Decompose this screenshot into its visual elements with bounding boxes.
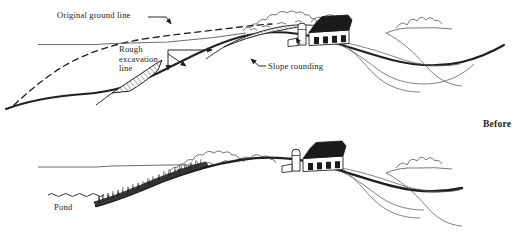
label-rough-excavation-line-1: Rough [119, 44, 143, 54]
label-before: Before [483, 119, 511, 129]
leader-original-ground-line [148, 17, 171, 24]
illustration-root: Original ground line Roughexcavationline… [0, 0, 532, 240]
distant-hill-top [386, 17, 452, 33]
leader-slope-rounding [251, 59, 266, 66]
label-original-ground-line: Original ground line [57, 11, 131, 21]
farm-buildings-bottom [282, 141, 346, 173]
grassed-bank [94, 162, 208, 206]
label-rough-excavation-line: Roughexcavationline [119, 45, 158, 74]
graded-ground-line-top [6, 32, 504, 109]
barn-leanto-bottom [282, 164, 292, 173]
pond-water-line [48, 194, 104, 197]
label-rough-excavation-line-3: line [119, 63, 133, 73]
top-panel [6, 11, 504, 109]
silo-bottom [292, 149, 300, 171]
label-rough-excavation-line-2: excavation [119, 54, 158, 64]
contour-lines-bottom [330, 166, 462, 226]
before-grading-diagram [0, 0, 532, 240]
label-slope-rounding: Slope rounding [268, 62, 323, 72]
excavation-wedge-lower-edge [96, 93, 112, 105]
label-pond: Pond [54, 203, 72, 213]
distant-hill-bottom [386, 157, 452, 173]
bottom-panel [38, 141, 462, 226]
horizon-reference-line-bottom [38, 165, 200, 167]
silo-top [298, 23, 306, 45]
farm-buildings-top [288, 15, 352, 47]
